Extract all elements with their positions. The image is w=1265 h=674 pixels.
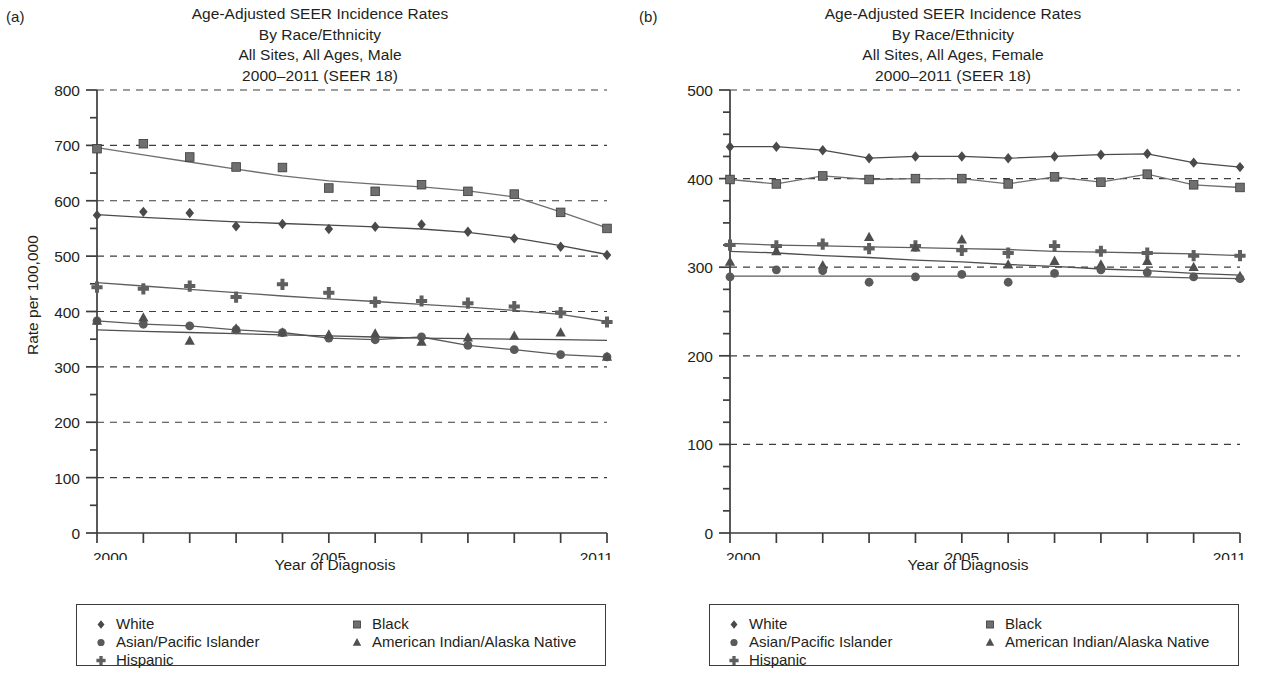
plus-marker — [729, 656, 738, 665]
plus-marker — [601, 316, 612, 327]
legend-item[interactable]: Hispanic — [726, 651, 807, 668]
square-marker — [1236, 183, 1245, 192]
circle-marker — [1097, 265, 1106, 274]
plus-icon — [726, 651, 742, 668]
triangle-marker — [138, 312, 148, 321]
plus-marker — [724, 239, 735, 250]
diamond-marker — [417, 219, 426, 229]
legend-item[interactable]: American Indian/Alaska Native — [349, 633, 576, 650]
x-axis-label-b: Year of Diagnosis — [698, 556, 1238, 574]
diamond-marker — [731, 620, 738, 629]
plus-marker — [1049, 240, 1060, 251]
triangle-marker — [986, 638, 994, 646]
triangle-marker — [725, 256, 735, 265]
circle-icon — [726, 633, 742, 650]
diamond-marker — [464, 227, 473, 237]
y-tick-label: 800 — [54, 82, 80, 99]
square-marker — [603, 224, 612, 233]
diamond-icon — [93, 615, 109, 632]
diamond-marker — [556, 242, 565, 252]
plus-marker — [323, 287, 334, 298]
diamond-marker — [1143, 149, 1152, 159]
y-tick-label: 100 — [687, 436, 713, 453]
x-axis-label-a: Year of Diagnosis — [65, 556, 605, 574]
diamond-marker — [818, 145, 827, 155]
legend-a: WhiteBlackAsian/Pacific IslanderAmerican… — [76, 604, 606, 666]
circle-icon — [93, 633, 109, 650]
plot-svg-b: 0100200300400500200020052011 — [633, 0, 1265, 560]
plot-area-a: 0100200300400500600700800200020052011 — [0, 0, 632, 560]
legend-item-label: Black — [1005, 615, 1042, 632]
plus-marker — [277, 279, 288, 290]
circle-marker — [772, 265, 781, 274]
diamond-marker — [772, 142, 781, 152]
y-tick-label: 300 — [54, 359, 80, 376]
circle-marker — [865, 278, 874, 287]
legend-b: WhiteBlackAsian/Pacific IslanderAmerican… — [709, 604, 1239, 666]
square-marker — [371, 187, 380, 196]
square-icon — [982, 615, 998, 632]
diamond-marker — [1004, 153, 1013, 163]
diamond-marker — [1189, 157, 1198, 167]
legend-item[interactable]: Black — [982, 615, 1042, 632]
legend-item-label: American Indian/Alaska Native — [1005, 633, 1209, 650]
y-tick-label: 400 — [54, 304, 80, 321]
legend-item[interactable]: White — [726, 615, 787, 632]
y-tick-label: 200 — [687, 348, 713, 365]
square-marker — [232, 163, 241, 172]
triangle-marker — [1189, 262, 1199, 271]
square-marker — [958, 174, 967, 183]
diamond-marker — [185, 208, 194, 218]
y-tick-label: 100 — [54, 470, 80, 487]
chart-panel-b: (b) Age-Adjusted SEER Incidence Rates By… — [633, 0, 1265, 674]
legend-item[interactable]: Hispanic — [93, 651, 174, 668]
diamond-marker — [603, 250, 612, 260]
square-marker — [911, 174, 920, 183]
series-line — [730, 276, 1240, 279]
circle-marker — [1143, 268, 1152, 277]
circle-marker — [510, 345, 519, 354]
y-axis-label-a: Rate per 100,000 — [24, 235, 42, 355]
circle-marker — [730, 639, 737, 646]
triangle-icon — [349, 633, 365, 650]
triangle-marker — [463, 332, 473, 341]
series-line — [730, 251, 1240, 275]
legend-item[interactable]: Black — [349, 615, 409, 632]
triangle-marker — [556, 327, 566, 336]
plus-marker — [1234, 250, 1245, 261]
legend-item[interactable]: Asian/Pacific Islander — [726, 633, 892, 650]
legend-item[interactable]: American Indian/Alaska Native — [982, 633, 1209, 650]
circle-marker — [818, 266, 827, 275]
square-marker — [353, 621, 360, 628]
legend-item-label: American Indian/Alaska Native — [372, 633, 576, 650]
legend-item-label: Asian/Pacific Islander — [116, 633, 259, 650]
circle-marker — [185, 321, 194, 330]
plus-icon — [93, 651, 109, 668]
square-marker — [986, 621, 993, 628]
legend-item[interactable]: Asian/Pacific Islander — [93, 633, 259, 650]
diamond-marker — [911, 151, 920, 161]
diamond-marker — [98, 620, 105, 629]
circle-marker — [911, 273, 920, 282]
chart-panel-a: (a) Age-Adjusted SEER Incidence Rates By… — [0, 0, 632, 674]
plus-marker — [1188, 250, 1199, 261]
diamond-marker — [93, 210, 102, 220]
legend-item[interactable]: White — [93, 615, 154, 632]
circle-marker — [1050, 269, 1059, 278]
diamond-marker — [371, 222, 380, 232]
series-line — [97, 148, 607, 228]
y-tick-label: 0 — [704, 525, 713, 542]
y-tick-label: 700 — [54, 137, 80, 154]
plus-marker — [956, 245, 967, 256]
square-marker — [1097, 178, 1106, 187]
plus-marker — [96, 656, 105, 665]
square-marker — [1189, 181, 1198, 190]
series-line — [730, 147, 1240, 167]
square-marker — [139, 139, 148, 148]
diamond-marker — [1050, 151, 1059, 161]
square-marker — [510, 190, 519, 199]
diamond-marker — [865, 153, 874, 163]
square-icon — [349, 615, 365, 632]
series-line — [730, 174, 1240, 187]
square-marker — [185, 153, 194, 162]
